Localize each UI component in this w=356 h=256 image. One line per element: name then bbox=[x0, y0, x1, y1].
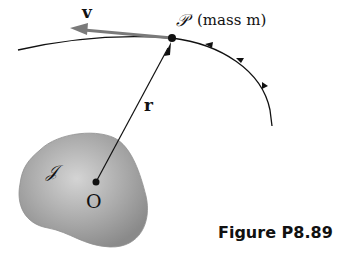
particle-label: 𝒫 bbox=[176, 10, 188, 30]
velocity-label: v bbox=[82, 2, 92, 22]
particle-point bbox=[168, 34, 176, 42]
trajectory-arrow-icon bbox=[262, 82, 268, 89]
figure-caption: Figure P8.89 bbox=[218, 223, 333, 242]
central-body bbox=[19, 133, 147, 247]
body-label: 𝒥 bbox=[46, 161, 58, 181]
diagram-canvas bbox=[0, 0, 356, 256]
position-vector-label: r bbox=[144, 95, 153, 115]
velocity-arrowhead-icon bbox=[70, 23, 88, 35]
origin-label: O bbox=[86, 190, 102, 212]
origin-point bbox=[93, 179, 100, 186]
particle-mass-label: (mass m) bbox=[197, 11, 266, 29]
position-arrowhead-icon bbox=[164, 42, 171, 56]
